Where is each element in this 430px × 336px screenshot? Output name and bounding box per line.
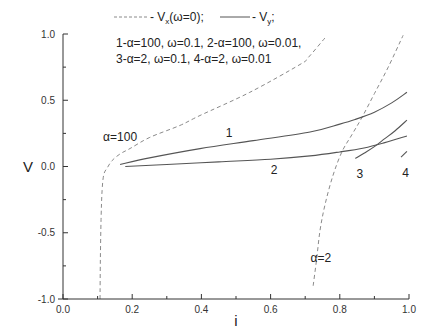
y-tick-label: 0.5 — [41, 95, 55, 106]
y-tick-label: -0.5 — [38, 227, 56, 238]
chart-svg: 0.00.20.40.60.81.0-1.0-0.50.00.51.0 i V … — [0, 0, 430, 336]
legend-line-3: 3-α=2, ω=0.1, 4-α=2, ω=0.01 — [116, 52, 272, 66]
series-annotation-1: α=100 — [103, 130, 137, 144]
legend-solid-text: - Vy; — [252, 10, 275, 26]
series-line-1 — [100, 38, 325, 299]
y-tick-label: 1.0 — [41, 29, 55, 40]
series-annotation-5: 3 — [357, 167, 364, 181]
x-tick-label: 1.0 — [402, 304, 416, 315]
x-tick-label: 0.8 — [333, 304, 347, 315]
series-line-4 — [125, 136, 407, 166]
series-line-2 — [313, 35, 403, 285]
x-axis-label: i — [234, 312, 237, 329]
x-tick-label: 0.2 — [125, 304, 139, 315]
y-axis-label: V — [23, 158, 33, 175]
series-annotation-3: 1 — [226, 126, 233, 140]
series-annotation-6: 4 — [402, 166, 409, 180]
y-tick-label: -1.0 — [38, 294, 56, 305]
x-tick-label: 0.0 — [56, 304, 70, 315]
y-tick-label: 0.0 — [41, 161, 55, 172]
legend-dashed-text: - Vx(ω=0); — [150, 10, 204, 26]
series-annotation-2: α=2 — [310, 251, 331, 265]
series-annotation-4: 2 — [271, 163, 278, 177]
series-line-6 — [401, 151, 407, 157]
series-line-5 — [355, 120, 407, 158]
legend: - Vx(ω=0); - Vy; 1-α=100, ω=0.1, 2-α=100… — [114, 10, 301, 66]
x-tick-label: 0.6 — [264, 304, 278, 315]
curve-annotations: α=100α=21234 — [103, 126, 409, 265]
x-tick-label: 0.4 — [194, 304, 208, 315]
legend-line-2: 1-α=100, ω=0.1, 2-α=100, ω=0.01, — [116, 36, 301, 50]
